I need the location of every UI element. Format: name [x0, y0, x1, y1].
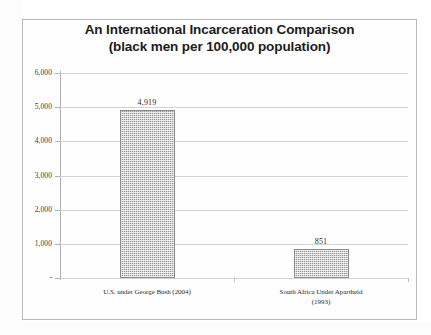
y-axis-tick [55, 73, 60, 74]
category-separator-tick [408, 278, 409, 282]
bar-value-label: 4,919 [107, 98, 187, 107]
y-axis-tick [55, 107, 60, 108]
y-axis-tick [55, 176, 60, 177]
y-axis-tick [55, 278, 60, 279]
gridline [60, 107, 408, 108]
bar[interactable] [120, 110, 175, 278]
y-axis-tick [55, 210, 60, 211]
gridline [60, 141, 408, 142]
x-axis-category-label: South Africa Under Apartheid(1993) [234, 288, 408, 307]
y-axis-tick-label: 4,000 [18, 136, 52, 145]
bar[interactable] [294, 249, 349, 278]
y-axis-tick [55, 244, 60, 245]
category-label-line: U.S. under George Bush (2004) [60, 288, 234, 298]
chart-title-line1: An International Incarceration Compariso… [85, 22, 355, 37]
chart-title: An International Incarceration Compariso… [22, 22, 417, 55]
y-axis-tick-label: 5,000 [18, 102, 52, 111]
gridline [60, 73, 408, 74]
y-axis-tick [55, 141, 60, 142]
gridline [60, 210, 408, 211]
y-axis-tick-label: 3,000 [18, 171, 52, 180]
chart-title-line2: (black men per 100,000 population) [22, 39, 417, 56]
category-separator-tick [234, 278, 235, 282]
category-label-line: South Africa Under Apartheid [234, 288, 408, 298]
bar-value-label: 851 [281, 237, 361, 246]
category-label-line: (1993) [234, 298, 408, 308]
y-axis-tick-label: 1,000 [18, 239, 52, 248]
scan-margin-bottom [0, 321, 431, 335]
y-axis-tick-label: 2,000 [18, 205, 52, 214]
x-axis-category-label: U.S. under George Bush (2004) [60, 288, 234, 298]
y-axis-tick-label: 6,000 [18, 68, 52, 77]
gridline [60, 176, 408, 177]
y-axis-tick-label: - [18, 273, 52, 282]
y-axis-labels: 6,0005,0004,0003,0002,0001,000- [14, 0, 52, 335]
